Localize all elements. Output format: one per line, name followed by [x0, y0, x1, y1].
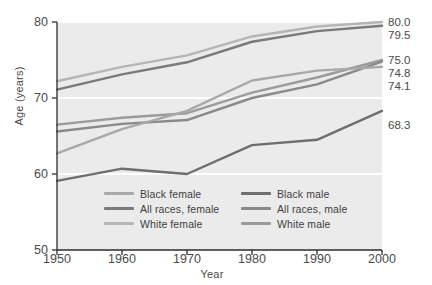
end-label-white-male: 75.0 — [388, 54, 410, 66]
end-label-black-male: 68.3 — [388, 119, 410, 131]
line-chart: Age (years) 50 60 70 80 1950 1960 1970 1… — [0, 0, 432, 285]
x-tick-label-1990: 1990 — [292, 252, 342, 266]
legend-swatch-icon — [104, 207, 134, 210]
legend-label: All races, female — [140, 203, 219, 215]
legend-item-white-female[interactable]: White female — [104, 218, 227, 230]
legend-item-all-races-female[interactable]: All races, female — [104, 203, 227, 215]
end-label-black-female: 74.1 — [388, 80, 410, 92]
legend-swatch-icon — [241, 222, 271, 225]
end-label-all-races-female: 79.5 — [388, 29, 410, 41]
legend-item-black-male[interactable]: Black male — [241, 188, 364, 200]
legend-label: Black female — [140, 188, 201, 200]
plot-area — [0, 0, 432, 285]
legend-item-white-male[interactable]: White male — [241, 218, 364, 230]
legend-swatch-icon — [241, 207, 271, 210]
legend-label: White male — [277, 218, 331, 230]
legend: Black female Black male All races, femal… — [104, 186, 364, 231]
y-tick-label-70: 70 — [14, 91, 48, 105]
x-tick-label-1960: 1960 — [97, 252, 147, 266]
legend-label: Black male — [277, 188, 329, 200]
y-tick-label-60: 60 — [14, 167, 48, 181]
legend-label: White female — [140, 218, 202, 230]
legend-swatch-icon — [104, 192, 134, 195]
legend-item-black-female[interactable]: Black female — [104, 188, 227, 200]
legend-label: All races, male — [277, 203, 347, 215]
y-axis-ticks — [52, 22, 57, 250]
x-tick-label-1950: 1950 — [32, 252, 82, 266]
x-tick-label-2000: 2000 — [357, 252, 407, 266]
legend-item-all-races-male[interactable]: All races, male — [241, 203, 364, 215]
y-tick-label-80: 80 — [14, 15, 48, 29]
end-label-all-races-male: 74.8 — [388, 67, 410, 79]
end-label-white-female: 80.0 — [388, 16, 410, 28]
legend-swatch-icon — [104, 222, 134, 225]
x-tick-label-1970: 1970 — [162, 252, 212, 266]
x-tick-label-1980: 1980 — [227, 252, 277, 266]
legend-swatch-icon — [241, 192, 271, 195]
x-axis-title: Year — [52, 268, 372, 280]
